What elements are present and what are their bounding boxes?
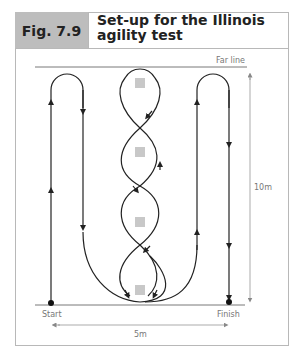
agility-course-diagram: Far line Start Fini [0,0,300,357]
cone-2 [135,147,145,157]
finish-label: Finish [217,310,240,319]
cone-4 [135,285,145,295]
width-label: 5m [134,330,147,339]
length-label: 10m [254,183,272,192]
cone-3 [135,217,145,227]
start-label: Start [42,310,62,319]
running-path [51,69,229,303]
far-line-label: Far line [216,56,245,65]
start-marker [48,300,54,306]
finish-marker [226,299,232,305]
cone-1 [135,78,145,88]
